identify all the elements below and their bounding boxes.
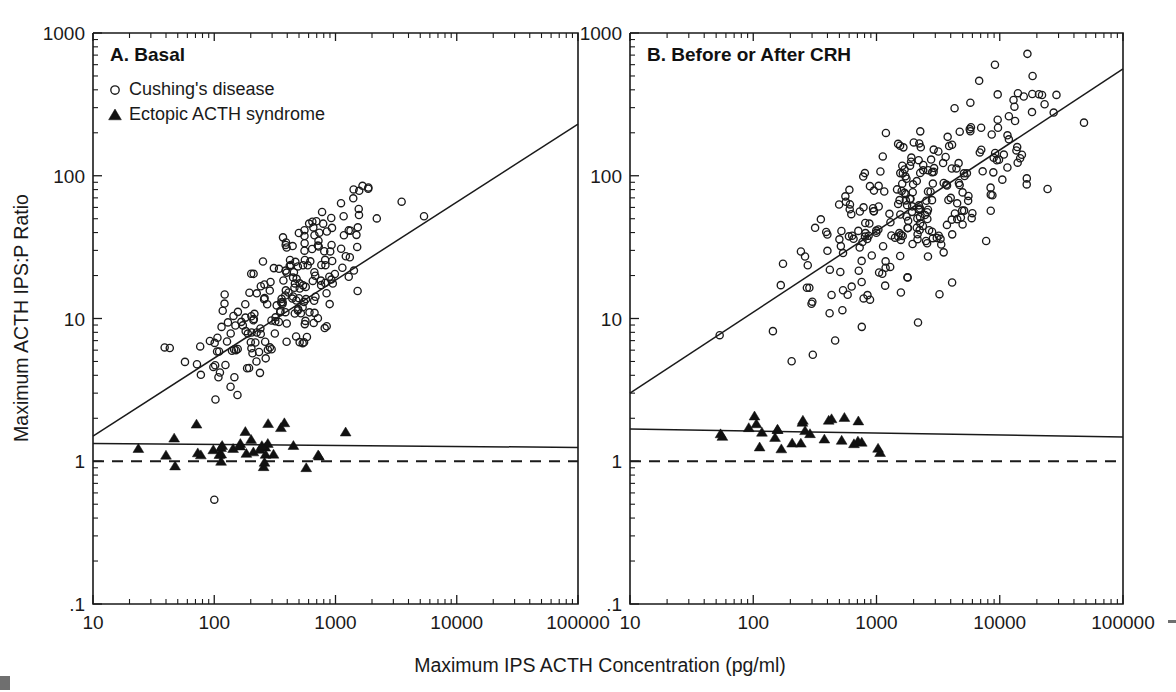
data-point-cushing (922, 237, 929, 244)
data-point-cushing (951, 105, 958, 112)
data-point-cushing (879, 153, 886, 160)
data-point-cushing (212, 362, 219, 369)
data-layer-panel-A (133, 182, 428, 503)
data-point-cushing (320, 220, 327, 227)
data-point-cushing (809, 351, 816, 358)
data-point-ectopic (263, 419, 274, 428)
data-point-cushing (777, 282, 784, 289)
y-tick-label-B: 1 (611, 451, 622, 472)
data-point-ectopic (772, 425, 783, 434)
data-point-cushing (223, 338, 230, 345)
data-point-cushing (836, 236, 843, 243)
panel-title-B: B. Before or After CRH (647, 44, 851, 65)
axes-panel-B (630, 33, 1123, 604)
data-point-cushing (839, 307, 846, 314)
data-point-cushing (826, 266, 833, 273)
data-point-cushing (328, 224, 335, 231)
data-point-cushing (832, 337, 839, 344)
y-tick-label-A: 1 (74, 451, 85, 472)
data-point-cushing (1041, 101, 1048, 108)
data-point-cushing (420, 213, 427, 220)
data-point-cushing (322, 256, 329, 263)
x-tick-label-A: 10000 (430, 612, 483, 633)
data-point-cushing (779, 260, 786, 267)
data-point-cushing (983, 237, 990, 244)
data-point-cushing (246, 289, 253, 296)
data-point-cushing (318, 208, 325, 215)
data-point-cushing (314, 315, 321, 322)
x-tick-label-A: 100 (198, 612, 230, 633)
data-point-cushing (337, 200, 344, 207)
data-point-cushing (328, 214, 335, 221)
data-point-cushing (990, 169, 997, 176)
data-point-cushing (936, 291, 943, 298)
data-point-cushing (166, 344, 173, 351)
data-point-ectopic (340, 427, 351, 436)
data-point-ectopic (787, 438, 798, 447)
data-point-cushing (1004, 164, 1011, 171)
data-point-cushing (801, 253, 808, 260)
data-point-cushing (197, 371, 204, 378)
data-point-cushing (954, 200, 961, 207)
data-point-cushing (345, 273, 352, 280)
data-point-cushing (338, 245, 345, 252)
data-point-cushing (942, 153, 949, 160)
data-point-cushing (206, 337, 213, 344)
data-point-ectopic (819, 434, 830, 443)
data-point-cushing (837, 268, 844, 275)
regression-line-B (630, 69, 1123, 393)
data-point-cushing (326, 301, 333, 308)
data-point-cushing (881, 188, 888, 195)
data-point-cushing (218, 323, 225, 330)
data-layer-panel-B (715, 50, 1087, 456)
data-point-cushing (879, 243, 886, 250)
data-point-cushing (855, 267, 862, 274)
data-point-cushing (994, 91, 1001, 98)
data-point-cushing (866, 183, 873, 190)
data-point-cushing (899, 180, 906, 187)
y-axis-title: Maximum ACTH IPS:P Ratio (10, 194, 32, 442)
data-point-cushing (221, 300, 228, 307)
data-point-cushing (339, 264, 346, 271)
data-point-cushing (994, 116, 1001, 123)
data-point-cushing (897, 289, 904, 296)
x-tick-label-A: 10 (82, 612, 103, 633)
data-point-cushing (905, 217, 912, 224)
data-point-ectopic (240, 427, 251, 436)
data-point-cushing (836, 201, 843, 208)
data-point-ectopic (246, 435, 257, 444)
data-point-cushing (976, 77, 983, 84)
data-point-cushing (828, 291, 835, 298)
data-point-ectopic (279, 418, 290, 427)
data-point-cushing (354, 224, 361, 231)
data-point-cushing (323, 228, 330, 235)
legend-label-cushing: Cushing's disease (129, 79, 275, 99)
data-point-cushing (398, 198, 405, 205)
data-point-cushing (231, 374, 238, 381)
data-point-cushing (323, 323, 330, 330)
data-point-cushing (994, 124, 1001, 131)
data-point-ectopic (836, 435, 847, 444)
data-point-ectopic (301, 463, 312, 472)
data-point-cushing (991, 61, 998, 68)
data-point-cushing (280, 277, 287, 284)
data-point-ectopic (161, 450, 172, 459)
data-point-cushing (949, 231, 956, 238)
data-point-cushing (292, 333, 299, 340)
data-point-ectopic (133, 444, 144, 453)
data-point-cushing (1044, 185, 1051, 192)
data-point-cushing (216, 369, 223, 376)
tick-labels-A: .1110100100010100100010000100000 (43, 23, 610, 633)
data-point-cushing (935, 148, 942, 155)
data-point-cushing (858, 257, 865, 264)
data-point-cushing (858, 323, 865, 330)
data-point-cushing (839, 287, 846, 294)
data-point-cushing (804, 262, 811, 269)
data-point-cushing (262, 355, 269, 362)
data-point-cushing (999, 176, 1006, 183)
data-point-cushing (882, 282, 889, 289)
data-point-cushing (848, 283, 855, 290)
data-point-cushing (846, 206, 853, 213)
x-tick-label-A: 100000 (546, 612, 609, 633)
data-point-cushing (329, 257, 336, 264)
